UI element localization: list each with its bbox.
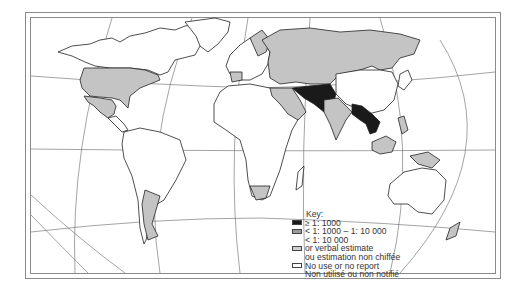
papua (410, 152, 440, 168)
swatch-medium-icon (292, 229, 302, 234)
spain (230, 72, 242, 82)
legend-label: Non utilisé ou non notifié (305, 270, 399, 279)
swatch-high-icon (292, 220, 302, 225)
swatch-none-icon (292, 263, 302, 268)
canada (58, 24, 215, 75)
central-america (108, 116, 128, 132)
japan (398, 70, 412, 90)
world-map (0, 0, 523, 287)
philippines (398, 116, 408, 134)
new-zealand (446, 222, 460, 240)
swatch-low-icon (292, 246, 302, 251)
madagascar (296, 166, 304, 190)
australia (388, 168, 446, 214)
map-legend: Key: ≥ 1: 1000 < 1: 1000 – 1: 10 000 < 1… (292, 210, 400, 279)
legend-item-none-line2: Non utilisé ou non notifié (292, 270, 400, 279)
indonesia (372, 136, 396, 154)
south-america (122, 128, 186, 244)
